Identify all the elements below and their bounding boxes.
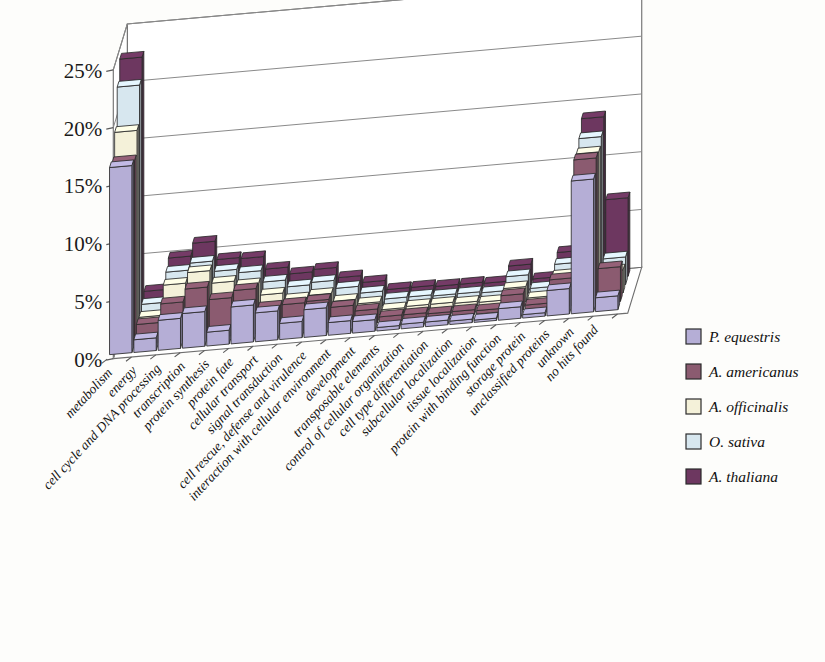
legend-item[interactable]: P. equestris bbox=[686, 328, 780, 345]
legend-item[interactable]: A. thaliana bbox=[686, 468, 778, 485]
bar bbox=[207, 325, 231, 347]
bar bbox=[182, 306, 206, 348]
bar bbox=[255, 305, 279, 342]
bar bbox=[474, 312, 498, 322]
y-axis-tick-label: 25% bbox=[64, 59, 103, 83]
y-axis-tick-label: 10% bbox=[64, 232, 103, 256]
bar bbox=[450, 313, 474, 324]
bar bbox=[353, 314, 377, 333]
bar-front-face bbox=[596, 296, 618, 312]
legend-label: O. sativa bbox=[709, 433, 765, 450]
bar-front-face bbox=[547, 289, 569, 316]
bar bbox=[596, 290, 620, 312]
bar bbox=[571, 173, 595, 313]
legend-swatch bbox=[686, 399, 701, 414]
bar bbox=[547, 283, 571, 316]
bar-front-face bbox=[207, 330, 229, 346]
bar bbox=[158, 313, 182, 351]
y-axis-tick-label: 20% bbox=[64, 117, 103, 141]
legend-label: A. americanus bbox=[708, 363, 799, 380]
y-axis-tick-label: 0% bbox=[74, 348, 102, 372]
y-axis-tick bbox=[106, 70, 113, 72]
y-axis-tick bbox=[106, 128, 113, 130]
bar bbox=[280, 316, 304, 340]
bar-front-face bbox=[231, 305, 253, 344]
bar bbox=[401, 317, 425, 329]
bar bbox=[304, 302, 328, 337]
legend-swatch bbox=[686, 434, 701, 449]
bar-front-face bbox=[280, 321, 302, 339]
bar-front-face bbox=[182, 312, 204, 349]
bar bbox=[425, 314, 449, 326]
bar-front-face bbox=[571, 179, 593, 314]
y-axis-tick-label: 5% bbox=[74, 290, 102, 314]
bar-front-face bbox=[110, 166, 132, 355]
legend-label: A. officinalis bbox=[708, 398, 788, 415]
legend-swatch bbox=[686, 469, 701, 484]
legend-item[interactable]: A. americanus bbox=[686, 363, 799, 380]
legend-label: P. equestris bbox=[708, 328, 780, 345]
bar-front-face bbox=[255, 311, 277, 342]
bar bbox=[110, 160, 134, 355]
bar-front-face bbox=[328, 321, 350, 336]
bar-front-face bbox=[158, 318, 180, 350]
legend-swatch bbox=[686, 329, 701, 344]
bar bbox=[523, 307, 547, 318]
y-axis-tick bbox=[106, 359, 113, 361]
legend-swatch bbox=[686, 364, 701, 379]
bar bbox=[134, 332, 158, 352]
legend-label: A. thaliana bbox=[708, 468, 778, 485]
legend-item[interactable]: A. officinalis bbox=[686, 398, 788, 415]
bar bbox=[498, 301, 522, 320]
bar bbox=[328, 315, 352, 335]
chart-figure: 0%5%10%15%20%25% metabolismenergycell cy… bbox=[0, 0, 825, 662]
bar-front-face bbox=[304, 308, 326, 338]
grouped-3d-bar-chart: 0%5%10%15%20%25% metabolismenergycell cy… bbox=[0, 0, 825, 662]
bar bbox=[377, 320, 401, 331]
bar bbox=[231, 299, 255, 344]
y-axis: 0%5%10%15%20%25% bbox=[64, 59, 114, 372]
bar-front-face bbox=[134, 338, 156, 353]
legend-item[interactable]: O. sativa bbox=[686, 433, 765, 450]
y-axis-tick-label: 15% bbox=[64, 174, 103, 198]
legend: P. equestrisA. americanusA. officinalisO… bbox=[686, 328, 799, 485]
